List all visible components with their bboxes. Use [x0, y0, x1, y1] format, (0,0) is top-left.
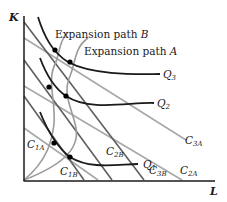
isocost-c2b-label: C2B [106, 145, 124, 159]
tangency-q2-b [46, 84, 51, 89]
x-axis-label: L [209, 185, 218, 198]
isocost-c2a-label: C2A [180, 164, 198, 178]
tangency-q1-b [51, 140, 56, 145]
tangency-q3-b [52, 47, 57, 52]
tangency-q1-a [67, 154, 72, 159]
tangency-q2-a [63, 93, 68, 98]
isocost-lines-a [24, 38, 186, 180]
isoquant-q2-label: Q2 [157, 97, 171, 111]
expansion-path-b-label: Expansion path B [55, 28, 149, 40]
tangency-q3-a [67, 59, 72, 64]
expansion-paths [24, 32, 88, 180]
expansion-path-diagram: K L Expansion path B Expansion path A Q1… [0, 0, 227, 202]
expansion-path-a-label: Expansion path A [84, 45, 178, 57]
isoquant-q3-label: Q3 [163, 68, 177, 82]
isocost-c3a-label: C3A [185, 134, 203, 148]
y-axis-label: K [8, 11, 19, 24]
